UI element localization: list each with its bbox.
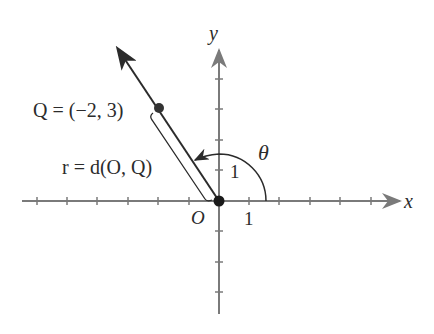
y-axis: [215, 50, 223, 314]
origin-point: [214, 196, 225, 207]
coordinate-diagram: x y O 1 1 Q = (−2, 3) r = d(O, Q) θ: [0, 0, 434, 334]
distance-label: r = d(O, Q): [62, 156, 152, 179]
origin-label: O: [191, 207, 205, 228]
terminal-ray: [118, 49, 219, 201]
y-unit-label: 1: [230, 161, 240, 182]
angle-label: θ: [258, 140, 269, 165]
point-q-label: Q = (−2, 3): [33, 99, 123, 122]
x-unit-label: 1: [244, 208, 254, 229]
x-axis-label: x: [403, 190, 413, 212]
y-axis-label: y: [207, 22, 218, 45]
point-q: [154, 103, 164, 113]
